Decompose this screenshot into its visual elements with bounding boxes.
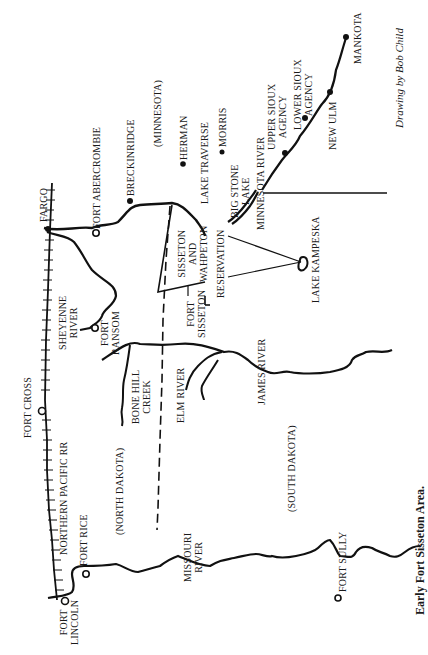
label-northern-pacific-rr: NORTHERN PACIFIC RR <box>58 442 69 555</box>
label-fort-rice: FORT RICE <box>78 514 89 566</box>
label-fort-cross: FORT CROSS <box>22 377 33 438</box>
lake-kampeska-shape <box>298 257 307 270</box>
label-bone-hill-creek: BONE HILL CREEK <box>130 370 152 424</box>
drawing-credit: Drawing by Bob Child <box>393 28 405 128</box>
label-fort-ransom: FORT RANSOM <box>99 311 121 355</box>
label-new-ulm: NEW ULM <box>327 101 338 150</box>
label-herman: HERMAN <box>178 115 189 160</box>
label-fort-sully: FORT SULLY <box>337 531 348 592</box>
label-lake-traverse: LAKE TRAVERSE <box>199 122 210 204</box>
label-south-dakota: (SOUTH DAKOTA) <box>286 425 297 512</box>
missouri-river <box>48 540 420 598</box>
label-lake-kampeska: LAKE KAMPESKA <box>310 216 321 303</box>
label-reservation: RESERVATION <box>215 230 226 298</box>
elm-river <box>186 352 222 400</box>
label-sheyenne-river: SHEYENNE RIVER <box>57 296 79 350</box>
label-mankota: MANKOTA <box>352 12 363 64</box>
label-reservation-name: SISSETON AND WAHPETON <box>176 226 209 282</box>
label-breckinridge: BRECKINRIDGE <box>125 119 136 196</box>
bone-hill-creek <box>121 345 130 426</box>
label-morris: MORRIS <box>217 107 228 147</box>
label-upper-sioux-agency: UPPER SIOUX AGENCY <box>266 84 288 150</box>
label-minnesota: (MINNESOTA) <box>152 80 163 147</box>
label-fort-lincoln: FORT LINCOLN <box>58 600 80 645</box>
label-fargo: FARGO <box>38 188 49 222</box>
label-missouri-river: MISSOURI RIVER <box>182 533 204 582</box>
label-north-dakota: (NORTH DAKOTA) <box>114 448 125 535</box>
label-fort-sisseton: FORT SISSETON <box>185 290 207 338</box>
map-caption: Early Fort Sisseton Area. <box>413 486 428 615</box>
label-lower-sioux-agency: LOWER SIOUX AGENCY <box>292 59 314 130</box>
label-minnesota-river: MINNESOTA RIVER <box>255 137 266 230</box>
label-big-stone-lake: BIG STONE LAKE <box>229 164 251 218</box>
label-james-river: JAMES RIVER <box>256 339 267 405</box>
label-fort-abercrombie: FORT ABERCROMBIE <box>91 127 102 229</box>
label-elm-river: ELM RIVER <box>175 368 186 423</box>
